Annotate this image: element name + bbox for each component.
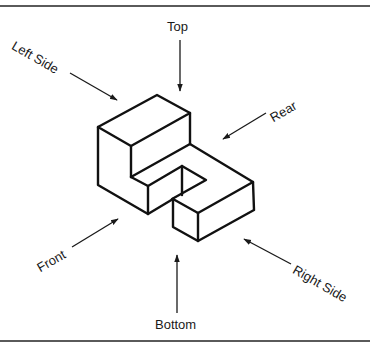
rear-arrow <box>223 113 266 139</box>
tall-block-top-face <box>98 95 190 146</box>
label-bottom: Bottom <box>155 318 196 331</box>
isometric-diagram <box>0 0 370 348</box>
front-arrow <box>72 219 118 247</box>
right-side-arrow <box>244 239 291 264</box>
label-top: Top <box>167 20 188 33</box>
left-side-arrow <box>70 73 117 100</box>
isometric-object <box>98 95 254 241</box>
